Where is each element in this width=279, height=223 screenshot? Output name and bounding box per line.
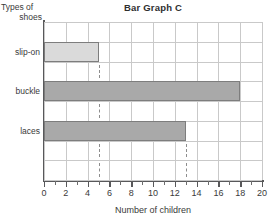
x-axis-title: Number of children xyxy=(44,205,262,215)
x-tick-label: 18 xyxy=(231,188,249,198)
x-tick-label: 14 xyxy=(188,188,206,198)
gridline-vertical xyxy=(131,22,132,180)
dashed-marker-5 xyxy=(99,144,100,158)
y-axis-title-line-2: shoes xyxy=(1,12,43,22)
x-tick-label: 12 xyxy=(166,188,184,198)
bar-slip-on xyxy=(44,42,99,62)
x-tick-major xyxy=(109,181,110,187)
x-tick-label: 20 xyxy=(253,188,271,198)
x-tick-label: 4 xyxy=(79,188,97,198)
x-tick-minor xyxy=(186,181,187,185)
x-tick-major xyxy=(131,181,132,187)
dashed-marker-13 xyxy=(186,163,187,177)
category-label-laces: laces xyxy=(0,126,40,136)
x-tick-major xyxy=(66,181,67,187)
plot-area xyxy=(44,22,262,180)
gridline-vertical xyxy=(175,22,176,180)
x-tick-label: 6 xyxy=(100,188,118,198)
x-tick-minor xyxy=(142,181,143,185)
category-label-slip-on: slip-on xyxy=(0,47,40,57)
gridline-vertical xyxy=(109,22,110,180)
x-tick-major xyxy=(153,181,154,187)
x-tick-label: 0 xyxy=(35,188,53,198)
x-tick-label: 16 xyxy=(209,188,227,198)
x-tick-minor xyxy=(208,181,209,185)
x-tick-major xyxy=(197,181,198,187)
x-tick-major xyxy=(240,181,241,187)
y-axis-title-line-1: Types of xyxy=(1,2,33,12)
x-tick-minor xyxy=(77,181,78,185)
x-tick-minor xyxy=(251,181,252,185)
category-label-buckle: buckle xyxy=(0,86,40,96)
chart-title: Bar Graph C xyxy=(44,2,262,13)
gridline-vertical xyxy=(153,22,154,180)
bar-laces xyxy=(44,121,186,141)
bar-chart: Bar Graph C Types of shoes Number of chi… xyxy=(0,0,279,223)
x-tick-major xyxy=(175,181,176,187)
x-tick-major xyxy=(262,181,263,187)
x-tick-label: 8 xyxy=(122,188,140,198)
x-tick-label: 2 xyxy=(57,188,75,198)
x-tick-minor xyxy=(55,181,56,185)
dashed-marker-5 xyxy=(99,65,100,79)
x-tick-minor xyxy=(120,181,121,185)
x-tick-minor xyxy=(229,181,230,185)
gridline-vertical xyxy=(197,22,198,180)
y-axis-title: Types of shoes xyxy=(1,2,43,22)
x-tick-minor xyxy=(99,181,100,185)
dashed-marker-13 xyxy=(186,144,187,158)
gridline-vertical xyxy=(240,22,241,180)
dashed-marker-5 xyxy=(99,104,100,118)
gridline-vertical xyxy=(262,22,263,180)
x-tick-label: 10 xyxy=(144,188,162,198)
x-tick-major xyxy=(44,181,45,187)
x-tick-major xyxy=(88,181,89,187)
dashed-marker-5 xyxy=(99,163,100,177)
x-tick-major xyxy=(218,181,219,187)
gridline-vertical xyxy=(218,22,219,180)
x-tick-minor xyxy=(164,181,165,185)
bar-buckle xyxy=(44,81,240,101)
